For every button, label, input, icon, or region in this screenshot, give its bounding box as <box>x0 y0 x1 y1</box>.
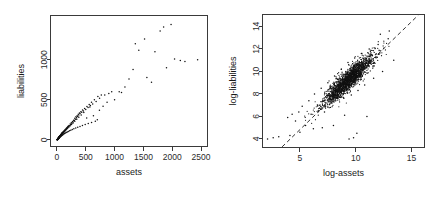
reference-line <box>282 15 418 147</box>
right-plot-svg: 51015log-assets468101214log-liabilities <box>221 0 442 197</box>
figure-container: 05001000150020002500assets05001000liabil… <box>0 0 442 197</box>
x-axis-title: log-assets <box>323 168 365 178</box>
x-tick-label: 15 <box>407 153 417 163</box>
y-tick-label: 14 <box>251 21 261 31</box>
scatter-panel-assets-liabilities: 05001000150020002500assets05001000liabil… <box>0 0 221 197</box>
x-tick-label: 1500 <box>134 152 153 162</box>
y-tick-label: 1000 <box>39 50 49 69</box>
x-tick-label: 2000 <box>163 152 182 162</box>
x-tick-label: 0 <box>55 152 60 162</box>
data-points-layer <box>267 15 418 147</box>
x-tick-label: 10 <box>351 153 361 163</box>
y-axis: 05001000 <box>39 50 50 142</box>
x-axis: 05001000150020002500 <box>55 147 211 162</box>
y-axis-title: liabilities <box>16 63 26 98</box>
left-plot-svg: 05001000150020002500assets05001000liabil… <box>0 0 221 197</box>
scatter-panel-log-assets-log-liabilities: 51015log-assets468101214log-liabilities <box>221 0 442 197</box>
y-tick-label: 8 <box>251 91 261 96</box>
y-tick-label: 10 <box>251 66 261 76</box>
y-tick-label: 6 <box>251 114 261 119</box>
y-tick-label: 4 <box>251 136 261 141</box>
data-points-layer <box>56 24 198 141</box>
y-tick-label: 0 <box>39 137 49 142</box>
x-tick-label: 500 <box>79 152 93 162</box>
y-axis-title: log-liabilities <box>228 56 238 106</box>
y-tick-label: 500 <box>39 92 49 106</box>
y-tick-label: 12 <box>251 44 261 54</box>
x-tick-label: 5 <box>298 153 303 163</box>
y-axis: 468101214 <box>251 21 262 141</box>
x-tick-label: 2500 <box>192 152 211 162</box>
x-tick-label: 1000 <box>105 152 124 162</box>
plot-frame <box>51 16 208 147</box>
x-axis-title: assets <box>116 167 143 177</box>
x-axis: 51015 <box>298 148 417 163</box>
